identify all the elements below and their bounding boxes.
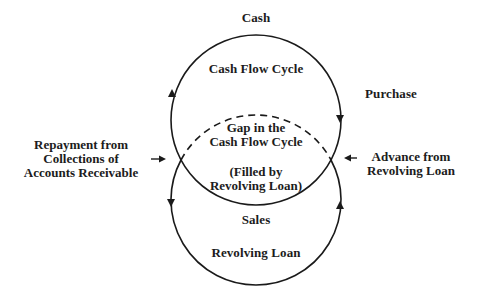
label-advance-line2: Revolving Loan — [359, 164, 463, 178]
label-repayment-line3: Accounts Receivable — [14, 166, 148, 180]
label-gap: Gap in the Cash Flow Cycle — [196, 121, 316, 149]
label-advance-line1: Advance from — [359, 150, 463, 164]
label-cash-flow-cycle: Cash Flow Cycle — [196, 62, 316, 76]
label-sales: Sales — [226, 213, 286, 227]
label-filled-line2: Revolving Loan) — [196, 179, 316, 193]
label-repayment-line1: Repayment from — [14, 138, 148, 152]
label-gap-line2: Cash Flow Cycle — [196, 135, 316, 149]
label-filled: (Filled by Revolving Loan) — [196, 165, 316, 193]
label-gap-line1: Gap in the — [196, 121, 316, 135]
label-repayment-line2: Collections of — [14, 152, 148, 166]
label-revolving-loan: Revolving Loan — [196, 246, 316, 260]
arrow-up-icon — [336, 201, 344, 209]
label-purchase: Purchase — [356, 87, 426, 101]
arrow-left-icon — [344, 155, 351, 162]
arrow-right-icon — [159, 156, 166, 163]
label-cash: Cash — [236, 11, 276, 25]
label-filled-line1: (Filled by — [196, 165, 316, 179]
arrow-down-icon — [336, 115, 344, 123]
label-advance: Advance from Revolving Loan — [359, 150, 463, 178]
arrow-down-icon — [167, 199, 175, 207]
label-repayment: Repayment from Collections of Accounts R… — [14, 138, 148, 180]
